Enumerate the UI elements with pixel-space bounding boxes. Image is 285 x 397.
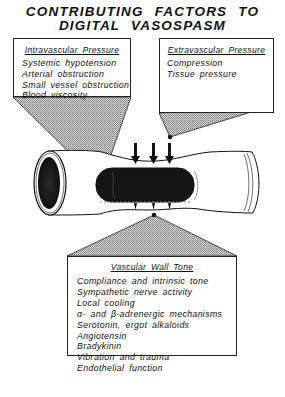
list-item: Compression [167,58,273,69]
intravascular-pressure-list: Systemic hypotension Arterial obstructio… [14,58,130,101]
vessel-lumen-opening [38,157,60,209]
extravascular-pressure-header: Extravascular Pressure [160,45,273,55]
vascular-wall-tone-box: Vascular Wall Tone Compliance and intrin… [67,256,237,356]
vascular-wall-tone-header: Vascular Wall Tone [68,262,236,272]
constricted-lumen [96,168,194,202]
list-item: Compliance and intrinsic tone [77,276,236,287]
list-item: Endothelial function [77,363,236,374]
intravascular-pressure-box: Intravascular Pressure Systemic hypotens… [13,38,131,97]
list-item: Serotonin, ergot alkaloids [77,320,236,331]
list-item: Arterial obstruction [22,69,130,80]
list-item: Systemic hypotension [22,58,130,69]
list-item: Vibration and trauma [77,352,236,363]
list-item: Tissue pressure [167,69,273,80]
list-item: Sympathetic nerve activity [77,287,236,298]
extravascular-pressure-box: Extravascular Pressure Compression Tissu… [159,38,274,113]
vascular-wall-callout-wedge [67,215,237,256]
list-item: Blood viscosity [22,90,130,101]
list-item: α- and β-adrenergic mechanisms [77,309,236,320]
extravascular-pressure-list: Compression Tissue pressure [160,58,273,80]
list-item: Angiotensin [77,331,236,342]
vascular-wall-tone-list: Compliance and intrinsic tone Sympatheti… [68,276,236,374]
list-item: Small vessel obstruction [22,80,130,91]
extravascular-pointer-dot [168,135,172,139]
intravascular-pressure-header: Intravascular Pressure [14,45,130,55]
vascular-wall-pointer-dot [152,213,156,217]
list-item: Bradykinin [77,341,236,352]
list-item: Local cooling [77,298,236,309]
